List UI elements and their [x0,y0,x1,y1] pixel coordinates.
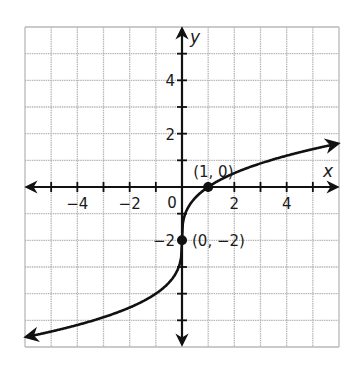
point-label: (1, 0) [193,163,233,181]
x-axis-label: x [322,161,334,181]
tick-labels: −4−224−2240 [66,72,291,250]
x-tick-label: −4 [66,195,88,213]
y-tick-label: −2 [153,232,175,250]
y-tick-label: 2 [165,126,175,144]
point-label: (0, −2) [192,232,245,250]
x-tick-label: 4 [282,195,292,213]
origin-label: 0 [167,194,177,212]
coordinate-plane: −4−224−2240 (1, 0)(0, −2) x y [0,0,352,367]
point-marker [177,235,187,245]
y-axis-label: y [189,27,201,47]
x-tick-label: 2 [230,195,240,213]
axes [27,29,337,344]
x-tick-label: −2 [119,195,141,213]
y-tick-label: 4 [165,72,175,90]
point-marker [203,182,213,192]
